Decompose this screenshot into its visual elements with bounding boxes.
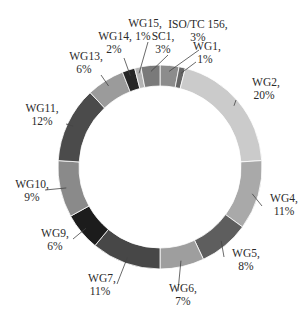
label-wg14: WG14,2% <box>98 30 132 55</box>
slice-wg4 <box>226 161 262 227</box>
label-wg7: WG7,11% <box>88 272 116 297</box>
label-wg9: WG9,6% <box>41 227 69 252</box>
slice-wg6 <box>160 240 203 269</box>
donut-chart-svg: ISO/TC 156,3% WG1,1% WG2,20% WG4,11% WG5… <box>0 0 307 316</box>
label-wg2: WG2,20% <box>252 76 280 101</box>
slice-wg7 <box>95 229 160 269</box>
donut-slices <box>58 65 262 269</box>
slice-wg11 <box>58 93 104 162</box>
label-wg4: WG4,11% <box>270 192 298 217</box>
slice-wg2 <box>180 68 262 162</box>
label-wg1: WG1,1% <box>193 40 221 65</box>
donut-chart: ISO/TC 156,3% WG1,1% WG2,20% WG4,11% WG5… <box>0 0 307 316</box>
label-wg11: WG11,12% <box>25 102 58 127</box>
label-sc1: SC1,3% <box>152 30 175 55</box>
label-wg6: WG6,7% <box>169 282 197 307</box>
label-wg5: WG5,8% <box>232 247 260 272</box>
label-wg10: WG10,9% <box>15 178 49 203</box>
label-wg13: WG13,6% <box>69 50 103 75</box>
